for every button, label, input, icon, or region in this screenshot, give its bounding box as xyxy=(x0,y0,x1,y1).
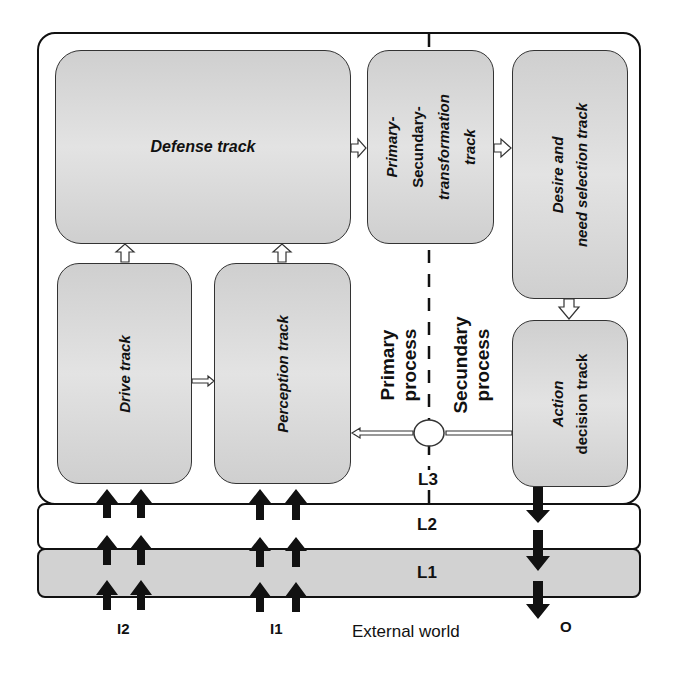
arrow-drive-to-defense xyxy=(116,244,134,262)
input-i2-label: I2 xyxy=(117,620,130,637)
external-world-label: External world xyxy=(352,622,460,642)
transformation-track-label: Primary- Secundary- transformation track xyxy=(379,94,483,200)
primary-secundary-transformation-track: Primary- Secundary- transformation track xyxy=(367,50,494,244)
defense-track-label: Defense track xyxy=(56,138,350,156)
feedback-line-right xyxy=(446,431,512,435)
arrow-transformation-to-desire xyxy=(494,139,511,157)
input-i1-label: I1 xyxy=(270,620,283,637)
defense-track: Defense track xyxy=(55,50,351,244)
layer-l1-label: L1 xyxy=(417,563,437,583)
action-track-label: Action decision track xyxy=(546,353,594,454)
arrow-desire-to-action xyxy=(559,299,579,319)
perception-track: Perception track xyxy=(214,263,351,484)
input-arrows xyxy=(96,487,550,619)
layer-l2-label: L2 xyxy=(417,515,437,535)
action-decision-track: Action decision track xyxy=(512,320,628,487)
drive-track: Drive track xyxy=(57,263,192,484)
arrow-perception-to-defense xyxy=(273,244,291,262)
output-o-label: O xyxy=(560,618,572,635)
desire-need-selection-track: Desire and need selection track xyxy=(512,50,628,299)
arrow-feedback-to-perception xyxy=(352,428,413,438)
secundary-process-label: Secundary process xyxy=(450,310,500,420)
feedback-junction-circle xyxy=(414,420,444,446)
drive-track-label: Drive track xyxy=(116,335,134,413)
layer-l3-label: L3 xyxy=(416,470,440,490)
arrow-drive-to-perception xyxy=(192,376,214,386)
perception-track-label: Perception track xyxy=(274,315,292,433)
primary-process-label: Primary process xyxy=(377,315,427,415)
desire-track-label: Desire and need selection track xyxy=(546,102,594,246)
arrow-defense-to-transformation xyxy=(351,139,366,157)
